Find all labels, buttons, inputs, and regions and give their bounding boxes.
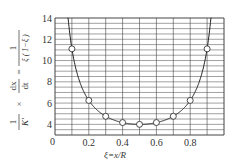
x-tick-label: 0.4 <box>116 137 129 148</box>
y-tick-labels: 468101214 <box>42 13 52 130</box>
x-axis-label: ξ=x/R <box>104 150 126 160</box>
data-point <box>69 46 75 52</box>
y-label-frac3-num: 1 <box>8 46 18 51</box>
y-axis-label: 1 K' × dx dt = 1 ξ ( 1−ξ ) <box>8 30 30 130</box>
y-label-times: × <box>14 101 24 106</box>
x-tick-label: 0.2 <box>83 137 96 148</box>
data-point <box>86 97 92 103</box>
y-label-frac1-num: 1 <box>8 120 18 125</box>
x-tick-label: 0.6 <box>150 137 163 148</box>
data-point <box>204 46 210 52</box>
y-tick-label: 14 <box>42 13 52 24</box>
y-tick-label: 10 <box>42 55 52 66</box>
data-point <box>120 120 126 126</box>
chart: 0.20.40.60.8 468101214 0 ξ=x/R 1 K' × dx… <box>0 0 236 167</box>
y-label-frac1-den: K' <box>20 117 30 127</box>
y-tick-label: 8 <box>47 76 52 87</box>
y-tick-label: 4 <box>47 119 52 130</box>
y-label-frac2-num: dx <box>8 81 18 91</box>
y-tick-label: 6 <box>47 98 52 109</box>
data-point <box>187 97 193 103</box>
grid <box>55 18 224 135</box>
y-label-frac2-den: dt <box>20 82 30 90</box>
data-point <box>153 120 159 126</box>
data-point <box>137 121 143 127</box>
x-tick-labels: 0.20.40.60.8 <box>83 137 197 148</box>
y-label-eq: = <box>14 69 24 74</box>
x-tick-label: 0.8 <box>184 137 197 148</box>
y-label-frac3-den: ξ ( 1−ξ ) <box>21 34 30 62</box>
origin-label: 0 <box>50 136 55 147</box>
data-point <box>103 113 109 119</box>
y-tick-label: 12 <box>42 34 52 45</box>
data-point <box>170 113 176 119</box>
